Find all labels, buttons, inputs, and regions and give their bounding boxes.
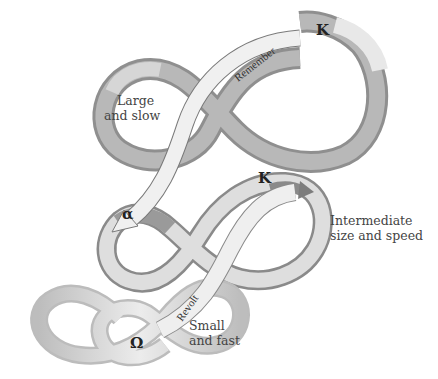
alpha-symbol: α (122, 205, 134, 223)
large-label-line2: and slow (104, 108, 160, 123)
large-cycle (103, 22, 380, 162)
small-label-line2: and fast (189, 333, 240, 348)
intermediate-k-symbol: K (258, 169, 272, 187)
omega-symbol: Ω (130, 334, 143, 352)
large-label-line1: Large (117, 93, 154, 108)
small-label-line1: Small (189, 318, 225, 333)
large-k-symbol: K (316, 21, 330, 39)
panarchy-diagram: Remember Revolt K K α Ω Large and slow I… (0, 0, 438, 379)
intermediate-label-line1: Intermediate (330, 213, 413, 228)
intermediate-label-line2: size and speed (330, 228, 423, 243)
